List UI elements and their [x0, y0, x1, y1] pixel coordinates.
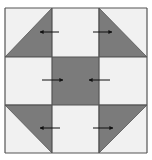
shoo-fly-quilt-block: [0, 0, 152, 160]
bottom-left-hst-patch: [5, 105, 52, 153]
middle-right-patch: [99, 57, 147, 105]
bottom-right-hst-patch: [99, 105, 147, 153]
top-center-patch: [52, 8, 99, 57]
bottom-center-patch: [52, 105, 99, 153]
middle-left-patch: [5, 57, 52, 105]
quilt-block-diagram: [0, 0, 152, 160]
quilt-patches: [5, 8, 147, 153]
center-square-patch: [52, 57, 99, 105]
